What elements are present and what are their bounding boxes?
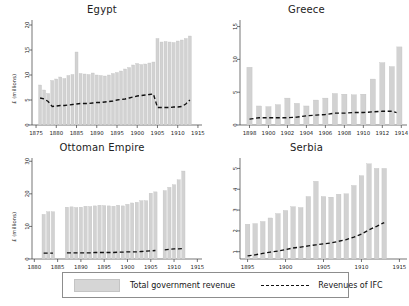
svg-text:1900: 1900	[262, 130, 276, 136]
svg-text:0: 0	[24, 257, 30, 261]
panel-egypt: Egypt £ (millions) 051015201875188018851…	[0, 4, 204, 138]
svg-text:1915: 1915	[191, 130, 205, 136]
svg-text:20: 20	[24, 190, 30, 197]
plot-area-serbia: 1234518951900190519101915	[224, 156, 409, 272]
svg-text:1885: 1885	[51, 264, 65, 270]
svg-text:1890: 1890	[74, 264, 88, 270]
svg-text:0: 0	[232, 123, 238, 127]
panel-title-greece: Greece	[204, 4, 409, 15]
svg-text:1880: 1880	[49, 130, 63, 136]
panel-ottoman-empire: Ottoman Empire £ (millions) 010203018801…	[0, 142, 204, 272]
svg-text:1898: 1898	[243, 130, 257, 136]
svg-text:15: 15	[24, 47, 30, 54]
svg-text:1912: 1912	[375, 130, 389, 136]
svg-text:1875: 1875	[29, 130, 43, 136]
svg-text:0: 0	[24, 123, 30, 127]
svg-text:1885: 1885	[70, 130, 84, 136]
multi-panel-revenue-figure: Egypt £ (millions) 051015201875188018851…	[0, 0, 409, 306]
legend-dash-revenues-of-ifc	[261, 285, 309, 286]
svg-text:1906: 1906	[319, 130, 333, 136]
svg-text:1910: 1910	[167, 264, 181, 270]
svg-text:5: 5	[232, 167, 238, 170]
svg-text:1895: 1895	[110, 130, 124, 136]
svg-text:1908: 1908	[338, 130, 352, 136]
svg-text:1910: 1910	[171, 130, 185, 136]
svg-text:3: 3	[232, 208, 238, 211]
svg-text:1910: 1910	[356, 130, 370, 136]
legend-swatch-total-government-revenue	[74, 279, 120, 292]
svg-text:1895: 1895	[97, 264, 111, 270]
svg-text:15: 15	[232, 23, 238, 30]
chart-svg-ottoman: 010203018801885189018951900190519101915	[18, 156, 204, 272]
legend-label-total-government-revenue: Total government revenue	[130, 281, 235, 290]
svg-text:1905: 1905	[317, 264, 331, 270]
svg-text:4: 4	[232, 187, 238, 191]
panel-serbia: Serbia £ (millions) 12345189519001905191…	[204, 142, 409, 272]
panel-greece: Greece £ (millions) 05101518981900190219…	[204, 4, 409, 138]
svg-text:1915: 1915	[190, 264, 204, 270]
figure-legend: Total government revenue Revenues of IFC	[62, 272, 349, 298]
svg-text:1902: 1902	[281, 130, 295, 136]
svg-text:1895: 1895	[241, 264, 255, 270]
y-axis-label-egypt: £ (millions)	[11, 74, 17, 104]
svg-text:1900: 1900	[130, 130, 144, 136]
svg-text:5: 5	[232, 90, 238, 93]
legend-label-revenues-of-ifc: Revenues of IFC	[318, 281, 382, 290]
svg-text:1904: 1904	[300, 130, 314, 136]
svg-text:1890: 1890	[90, 130, 104, 136]
svg-text:1915: 1915	[393, 264, 407, 270]
chart-svg-egypt: 0510152018751880188518901895190019051910…	[18, 18, 204, 138]
svg-text:1905: 1905	[151, 130, 165, 136]
svg-text:20: 20	[24, 21, 30, 28]
svg-text:1905: 1905	[144, 264, 158, 270]
panel-title-egypt: Egypt	[0, 4, 204, 15]
svg-text:1900: 1900	[279, 264, 293, 270]
svg-text:1914: 1914	[394, 130, 408, 136]
chart-svg-greece: 0510151898190019021904190619081910191219…	[224, 18, 409, 138]
svg-text:10: 10	[24, 71, 30, 78]
plot-area-egypt: 0510152018751880188518901895190019051910…	[18, 18, 204, 138]
plot-area-ottoman-empire: 010203018801885189018951900190519101915	[18, 156, 204, 272]
y-axis-label-ottoman: £ (millions)	[11, 212, 17, 242]
plot-area-greece: 0510151898190019021904190619081910191219…	[224, 18, 409, 138]
svg-text:1900: 1900	[121, 264, 135, 270]
chart-svg-serbia: 1234518951900190519101915	[224, 156, 409, 272]
svg-text:10: 10	[232, 55, 238, 62]
svg-text:30: 30	[24, 157, 30, 164]
svg-text:1880: 1880	[27, 264, 41, 270]
svg-text:5: 5	[24, 98, 30, 101]
svg-text:10: 10	[24, 222, 30, 229]
panel-title-serbia: Serbia	[204, 142, 409, 153]
svg-text:2: 2	[232, 229, 238, 232]
svg-text:1910: 1910	[355, 264, 369, 270]
panel-title-ottoman-empire: Ottoman Empire	[0, 142, 204, 153]
svg-text:1: 1	[232, 250, 238, 253]
